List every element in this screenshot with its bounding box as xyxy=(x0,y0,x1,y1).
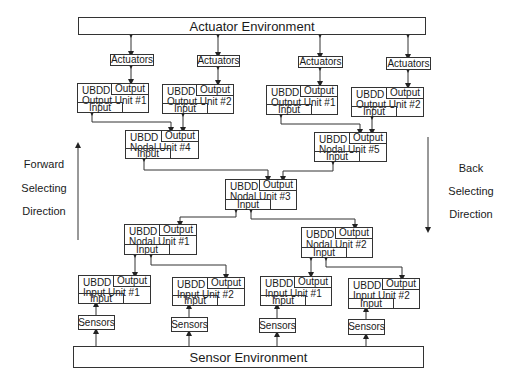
input-port: Input xyxy=(352,106,397,116)
output-unit: UBDD Output Output Unit #1 Input xyxy=(77,83,149,113)
output-port: Output xyxy=(196,85,233,96)
sensors-box: Sensors xyxy=(78,315,115,330)
input-port: Input xyxy=(78,102,123,112)
input-port: Input xyxy=(315,151,360,161)
sensor-environment: Sensor Environment xyxy=(73,346,424,368)
input-port: Input xyxy=(79,293,124,303)
nodal-unit-1: UBDD Output Nodal Unit #1 Input xyxy=(124,224,197,255)
input-port: Input xyxy=(163,103,208,113)
output-port: Output xyxy=(294,277,331,288)
forward-label-line3: Direction xyxy=(9,205,79,217)
input-port: Input xyxy=(226,199,271,209)
back-label-line1: Back xyxy=(436,162,506,174)
output-port: Output xyxy=(349,133,386,144)
input-port: Input xyxy=(261,295,306,305)
input-port: Input xyxy=(267,104,312,114)
output-port: Output xyxy=(382,279,419,290)
input-port: Input xyxy=(302,247,347,257)
actuators-box: Actuators xyxy=(298,56,343,68)
output-port: Output xyxy=(386,88,423,99)
input-unit: UBDD Output Input Unit #2 Input xyxy=(172,277,245,306)
output-port: Output xyxy=(111,84,148,95)
nodal-unit-4: UBDD Output Nodal Unit #4 Input xyxy=(125,130,199,159)
output-port: Output xyxy=(259,180,296,191)
actuator-environment: Actuator Environment xyxy=(78,17,426,35)
output-port: Output xyxy=(159,225,196,236)
input-port: Input xyxy=(126,148,171,158)
input-port: Input xyxy=(173,295,218,305)
output-unit: UBDD Output Output Unit #2 Input xyxy=(162,84,234,114)
actuators-box: Actuators xyxy=(110,54,154,66)
input-unit: UBDD Output Input Unit #1 Input xyxy=(260,276,332,306)
back-label-line2: Selecting xyxy=(436,185,506,197)
input-port: Input xyxy=(349,298,394,308)
output-port: Output xyxy=(207,278,244,289)
forward-label-line1: Forward xyxy=(9,158,79,170)
input-unit: UBDD Output Input Unit #1 Input xyxy=(78,275,151,304)
forward-label-line2: Selecting xyxy=(9,182,79,194)
output-port: Output xyxy=(113,276,150,287)
sensors-box: Sensors xyxy=(171,317,208,332)
nodal-unit-2: UBDD Output Nodal Unit #2 Input xyxy=(301,227,373,258)
output-port: Output xyxy=(335,228,372,239)
sensors-box: Sensors xyxy=(348,319,385,335)
input-unit: UBDD Output Input Unit #2 Input xyxy=(348,278,420,309)
back-label-line3: Direction xyxy=(436,208,506,220)
input-port: Input xyxy=(125,244,170,254)
output-port: Output xyxy=(300,86,337,97)
output-unit: UBDD Output Output Unit #1 Input xyxy=(266,85,338,115)
output-unit: UBDD Output Output Unit #2 Input xyxy=(351,87,424,117)
actuators-box: Actuators xyxy=(386,57,431,70)
sensors-box: Sensors xyxy=(259,318,296,333)
output-port: Output xyxy=(161,131,198,142)
actuators-box: Actuators xyxy=(197,55,240,67)
nodal-unit-3: UBDD Output Nodal Unit #3 Input xyxy=(225,179,297,210)
nodal-unit-5: UBDD Output Nodal Unit #5 Input xyxy=(314,132,387,162)
